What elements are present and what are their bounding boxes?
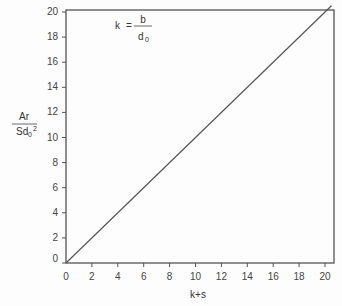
- x-tick-label: 2: [89, 271, 95, 282]
- x-tick-label: 4: [115, 271, 121, 282]
- y-label-numerator: Ar: [19, 111, 30, 122]
- x-axis-label: k+s: [190, 289, 206, 300]
- plot-area-border: [66, 10, 334, 263]
- formula-annotation: k = b d 0: [115, 14, 152, 43]
- y-axis-label: Ar Sd 0 2: [12, 111, 37, 138]
- x-tick-label: 12: [216, 271, 228, 282]
- y-label-subscript: 0: [28, 131, 32, 138]
- x-tick-label: 16: [268, 271, 280, 282]
- y-tick-label: 8: [52, 157, 58, 168]
- y-tick-label: 6: [52, 182, 58, 193]
- y-tick-label: 0: [52, 253, 58, 264]
- x-tick-label: 14: [242, 271, 254, 282]
- y-tick-label: 16: [47, 56, 59, 67]
- annotation-equals: =: [126, 20, 132, 31]
- x-tick-label: 6: [141, 271, 147, 282]
- annotation-denominator-subscript: 0: [145, 36, 149, 43]
- data-series: [66, 6, 331, 263]
- x-axis-ticks: 02468101214161820: [63, 263, 331, 282]
- x-tick-label: 20: [319, 271, 331, 282]
- plot-frame: [66, 10, 334, 263]
- annotation-numerator: b: [140, 14, 146, 25]
- y-label-denominator: Sd: [16, 126, 28, 137]
- annotation-denominator: d: [138, 31, 144, 42]
- y-tick-label: 4: [52, 207, 58, 218]
- x-tick-label: 0: [63, 271, 69, 282]
- y-label-superscript: 2: [33, 125, 37, 132]
- y-tick-label: 20: [47, 6, 59, 17]
- y-tick-label: 12: [47, 106, 59, 117]
- x-tick-label: 10: [190, 271, 202, 282]
- series-line: [66, 6, 331, 263]
- y-tick-label: 2: [52, 232, 58, 243]
- chart: 02468101214161820 02468101214161820 k = …: [0, 0, 342, 306]
- x-tick-label: 8: [167, 271, 173, 282]
- annotation-lhs: k: [115, 20, 121, 31]
- y-tick-label: 10: [47, 132, 59, 143]
- y-tick-label: 18: [47, 31, 59, 42]
- y-axis-ticks: 02468101214161820: [47, 6, 66, 264]
- x-tick-label: 18: [294, 271, 306, 282]
- y-tick-label: 14: [47, 81, 59, 92]
